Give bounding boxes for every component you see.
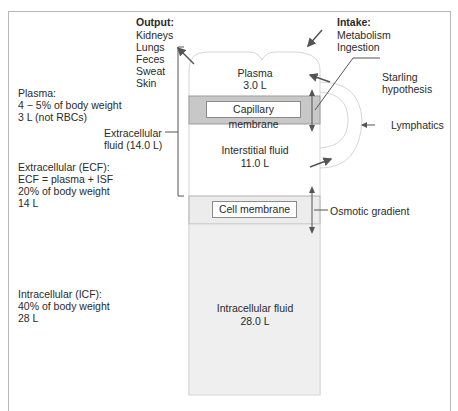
- output-item: Skin: [136, 77, 156, 89]
- cell-membrane-label: Cell membrane: [212, 201, 297, 218]
- plasma-note: 3 L (not RBCs): [18, 111, 87, 123]
- lymphatics-label: Lymphatics: [391, 119, 444, 131]
- icf-note: 40% of body weight: [18, 300, 110, 312]
- intracellular-volume: 28.0 L: [200, 315, 310, 327]
- capillary-membrane-label: Capillary membrane: [206, 101, 301, 118]
- output-title: Output:: [136, 16, 174, 28]
- interstitial-label: Interstitial fluid: [204, 144, 306, 156]
- starling-label-line1: Starling: [382, 71, 418, 83]
- osmotic-gradient-label: Osmotic gradient: [330, 205, 409, 217]
- intake-item: Ingestion: [337, 41, 380, 53]
- icf-note: Intracellular (ICF):: [18, 288, 102, 300]
- starling-label-line2: hypothesis: [382, 83, 432, 95]
- intracellular-label: Intracellular fluid: [200, 302, 310, 314]
- ecf-bracket: [178, 47, 184, 196]
- intake-title: Intake:: [337, 16, 371, 28]
- interstitial-volume: 11.0 L: [204, 157, 306, 169]
- plasma-note: Plasma:: [18, 87, 56, 99]
- output-item: Kidneys: [136, 29, 173, 41]
- plasma-label: Plasma: [219, 67, 291, 79]
- output-item: Feces: [136, 53, 165, 65]
- plasma-volume: 3.0 L: [219, 79, 291, 91]
- output-item: Sweat: [136, 65, 165, 77]
- intake-item: Metabolism: [337, 29, 391, 41]
- intake-arrow: [308, 30, 322, 46]
- ecf-note: 20% of body weight: [18, 185, 110, 197]
- ecf-note: 14 L: [18, 197, 38, 209]
- output-item: Lungs: [136, 41, 165, 53]
- ecf-bracket-label-line2: fluid (14.0 L): [104, 139, 162, 151]
- plasma-note: 4 − 5% of body weight: [18, 99, 122, 111]
- output-arrow: [178, 48, 194, 64]
- ecf-note: Extracellular (ECF):: [18, 161, 110, 173]
- icf-note: 28 L: [18, 312, 38, 324]
- ecf-bracket-label-line1: Extracellular: [104, 127, 162, 139]
- ecf-note: ECF = plasma + ISF: [18, 173, 113, 185]
